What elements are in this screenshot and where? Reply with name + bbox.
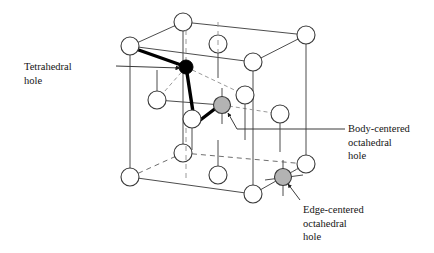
atom-corner-back-top-right <box>297 26 315 44</box>
label-body-centered-octahedral-hole: Body-centered octahedral hole <box>348 122 434 163</box>
atom-face-center-right <box>271 105 289 123</box>
atom-face-center-front <box>183 110 201 128</box>
bond-tetra-to-face-back <box>186 67 245 95</box>
atom-corner-front-top-right <box>244 53 262 71</box>
body-centered-octahedral-hole-marker <box>214 97 231 114</box>
atom-corner-back-bottom-left <box>174 144 192 162</box>
bond-corner-to-tetra <box>133 48 184 66</box>
atom-face-center-back <box>236 86 254 104</box>
cube-edge-front-bottom <box>130 177 253 194</box>
bond-face-front-to-body-octa <box>199 108 216 121</box>
crystal-structure-figure: Tetrahedral hole Body-centered octahedra… <box>0 0 434 253</box>
bond-tetra-to-face-front <box>187 73 193 112</box>
atom-corner-back-top-left <box>174 13 192 31</box>
label-tetrahedral-hole: Tetrahedral hole <box>24 60 116 87</box>
label-edge-centered-octahedral-hole: Edge-centered octahedral hole <box>303 203 395 244</box>
atom-corner-front-top-left <box>121 37 139 55</box>
cube-edge-back-top <box>183 22 306 35</box>
edge-centered-octahedral-hole-marker <box>275 169 292 186</box>
atom-face-center-bottom <box>209 166 227 184</box>
tetrahedral-hole-marker <box>179 60 193 74</box>
atom-corner-back-bottom-right <box>297 155 315 173</box>
leader-line-edge-centered <box>288 184 300 200</box>
cube-edge-bottom-back <box>183 153 306 164</box>
atom-corner-front-bottom-left <box>121 168 139 186</box>
atom-corner-front-bottom-right <box>244 185 262 203</box>
tetrahedral-bond-bold-group <box>133 48 216 121</box>
atom-face-center-left <box>148 91 166 109</box>
leader-line-tetrahedral <box>116 66 180 68</box>
bond-octa-to-face-left <box>157 100 222 105</box>
